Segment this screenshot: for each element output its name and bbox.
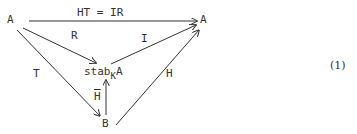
node-b: B [102, 118, 109, 130]
label-i: I [141, 33, 148, 45]
stab-subscript: K [111, 71, 116, 81]
label-ht-ir: HT = IR [77, 7, 123, 19]
arrow-i [111, 25, 196, 64]
label-h: H [166, 68, 173, 80]
stab-label: stab [84, 65, 111, 78]
equation-number: (1) [330, 59, 346, 72]
arrow-h [116, 30, 199, 125]
diagram-arrows [0, 0, 357, 134]
node-a-left: A [7, 14, 14, 26]
node-stab-k-a: stabKA [84, 66, 123, 78]
node-a-right: A [200, 14, 207, 26]
label-t: T [33, 68, 40, 80]
stab-suffix: A [116, 65, 123, 78]
label-h-bar: H [94, 91, 101, 103]
arrow-r [23, 28, 96, 63]
label-r: R [71, 30, 78, 42]
